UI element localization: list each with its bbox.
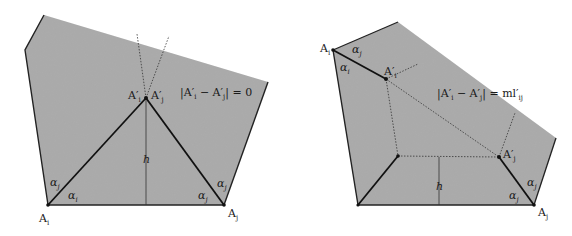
left-vertex-i-point bbox=[46, 203, 50, 207]
right-vertex-i-point bbox=[331, 48, 335, 52]
left-vertex-j-point bbox=[222, 203, 226, 207]
right-height-label: h bbox=[436, 180, 443, 193]
left-panel: A′i A′j |A′i − A′j| = 0 h αj αi αj αj Ai… bbox=[25, 15, 268, 227]
right-shaded-polygon bbox=[333, 22, 556, 205]
right-vertex-j-point bbox=[532, 203, 536, 207]
right-apex-j-point bbox=[497, 155, 501, 159]
left-height-label: h bbox=[143, 153, 150, 166]
right-panel: Ai αj αi A′i |A′i − A′j| = ml′ij A′j h α… bbox=[319, 22, 556, 221]
right-vertex-i-label: Ai bbox=[319, 42, 331, 57]
right-equation: |A′i − A′j| = ml′ij bbox=[437, 87, 523, 102]
right-inner-point bbox=[396, 154, 400, 158]
left-vertex-j-label: Aj bbox=[227, 207, 238, 222]
left-vertex-i-label: Ai bbox=[38, 212, 50, 227]
right-bottom-left-point bbox=[356, 203, 359, 206]
left-equation: |A′i − A′j| = 0 bbox=[180, 86, 252, 101]
right-vertex-j-label: Aj bbox=[537, 206, 548, 221]
diagram-canvas: A′i A′j |A′i − A′j| = 0 h αj αi αj αj Ai… bbox=[0, 0, 572, 236]
left-apex-point bbox=[144, 96, 148, 100]
left-shaded-polygon bbox=[25, 15, 268, 205]
